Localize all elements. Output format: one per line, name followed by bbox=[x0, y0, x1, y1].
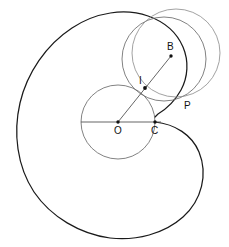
geometry-diagram: O C I B P bbox=[0, 0, 229, 247]
point-dot-O bbox=[116, 120, 119, 123]
second-generating-circle bbox=[132, 9, 220, 97]
point-label-O: O bbox=[114, 125, 122, 136]
point-label-B: B bbox=[167, 41, 174, 52]
point-label-I: I bbox=[139, 75, 142, 86]
point-dot-B bbox=[169, 54, 172, 57]
point-dot-I bbox=[143, 86, 147, 90]
point-dot-C bbox=[153, 120, 156, 123]
spiral-curve-group bbox=[17, 12, 203, 239]
figure-canvas: O C I B P bbox=[0, 0, 229, 247]
point-label-P: P bbox=[184, 100, 191, 111]
rolling-circle bbox=[122, 17, 206, 101]
main-spiral-curve bbox=[17, 12, 203, 239]
point-label-C: C bbox=[151, 125, 158, 136]
